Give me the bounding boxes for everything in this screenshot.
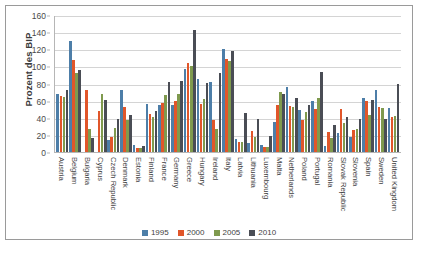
legend-item[interactable]: 2000 <box>178 228 205 237</box>
x-label-cell: Czech Republic <box>106 155 119 227</box>
bar-group <box>107 16 120 152</box>
x-label-cell: Estonia <box>132 155 145 227</box>
source-caption <box>130 250 418 258</box>
bar-group <box>387 16 400 152</box>
legend-swatch-icon <box>214 230 220 236</box>
x-tick-label: Latvia <box>236 157 245 177</box>
y-tick-label: 100 <box>32 62 46 72</box>
x-label-cell: Poland <box>298 155 311 227</box>
y-tick-label: 160 <box>32 11 46 21</box>
chart-figure: Prozent des BIP 020406080100120140160 Au… <box>0 0 421 258</box>
y-tick-mark <box>47 84 50 85</box>
x-tick-label: Slovak Republic <box>338 157 347 211</box>
y-tick-mark <box>47 101 50 102</box>
y-tick-mark <box>47 135 50 136</box>
x-label-cell: Greece <box>183 155 196 227</box>
y-axis-tick-labels: 020406080100120140160 <box>16 16 50 153</box>
bar-group <box>323 16 336 152</box>
x-label-cell: Ireland <box>208 155 221 227</box>
x-tick-label: Poland <box>300 157 309 181</box>
x-tick-label: Sweden <box>376 157 385 184</box>
x-tick-label: Belgium <box>70 157 79 184</box>
x-label-cell: Spain <box>362 155 375 227</box>
y-tick-mark <box>47 153 50 154</box>
x-tick-label: Denmark <box>121 157 130 188</box>
x-label-cell: Slovenia <box>349 155 362 227</box>
bar-group <box>260 16 273 152</box>
x-label-cell: Slovak Republic <box>336 155 349 227</box>
bar-group <box>272 16 285 152</box>
bar-group <box>234 16 247 152</box>
y-tick-label: 120 <box>32 45 46 55</box>
legend-swatch-icon <box>249 230 255 236</box>
x-label-cell: United Kingdom <box>387 155 400 227</box>
x-tick-label: France <box>159 157 168 181</box>
bar-group <box>183 16 196 152</box>
x-tick-label: Portugal <box>313 157 322 185</box>
bar-group <box>336 16 349 152</box>
x-tick-label: Czech Republic <box>108 157 117 210</box>
bar-group <box>145 16 158 152</box>
plot-area <box>54 16 401 153</box>
x-label-cell: Austria <box>55 155 68 227</box>
x-label-cell: Germany <box>170 155 183 227</box>
y-tick-label: 20 <box>37 131 46 141</box>
x-tick-label: Luxembourg <box>261 157 270 199</box>
x-tick-label: Ireland <box>210 157 219 180</box>
bar-group <box>209 16 222 152</box>
legend-label: 2005 <box>223 228 241 237</box>
x-label-cell: Malta <box>272 155 285 227</box>
x-tick-label: Lithuania <box>249 157 258 188</box>
x-label-cell: Netherlands <box>285 155 298 227</box>
bar <box>397 84 400 153</box>
x-label-cell: Sweden <box>375 155 388 227</box>
legend-label: 1995 <box>151 228 169 237</box>
x-tick-label: Cyprus <box>95 157 104 181</box>
bar-group <box>56 16 69 152</box>
x-tick-label: Romania <box>325 157 334 187</box>
x-axis-category-labels: AustriaBelgiumBulgariaCyprusCzech Republ… <box>54 155 401 227</box>
y-tick-mark <box>47 33 50 34</box>
y-tick-label: 140 <box>32 28 46 38</box>
bar-group <box>81 16 94 152</box>
x-tick-label: Spain <box>364 157 373 176</box>
x-tick-label: Italy <box>223 157 232 171</box>
x-tick-label: Hungary <box>197 157 206 186</box>
bar-group <box>222 16 235 152</box>
y-tick-mark <box>47 50 50 51</box>
x-tick-label: Austria <box>57 157 66 181</box>
x-tick-label: Finland <box>146 157 155 182</box>
legend-swatch-icon <box>142 230 148 236</box>
y-tick-label: 60 <box>37 97 46 107</box>
bar-group <box>158 16 171 152</box>
x-label-cell: Belgium <box>68 155 81 227</box>
bar-group <box>120 16 133 152</box>
legend-item[interactable]: 2010 <box>249 228 276 237</box>
y-tick-label: 80 <box>37 80 46 90</box>
bar-group <box>69 16 82 152</box>
bar-group <box>311 16 324 152</box>
x-tick-label: Estonia <box>134 157 143 182</box>
legend-item[interactable]: 1995 <box>142 228 169 237</box>
legend-item[interactable]: 2005 <box>214 228 241 237</box>
x-label-cell: Latvia <box>234 155 247 227</box>
bar-group <box>94 16 107 152</box>
x-label-cell: Cyprus <box>93 155 106 227</box>
bar-group <box>196 16 209 152</box>
bar-group <box>247 16 260 152</box>
chart-legend: 1995200020052010 <box>6 228 412 237</box>
y-tick-mark <box>47 16 50 17</box>
legend-swatch-icon <box>178 230 184 236</box>
x-tick-label: United Kingdom <box>389 157 398 211</box>
bar-group <box>171 16 184 152</box>
legend-label: 2010 <box>258 228 276 237</box>
x-label-cell: Luxembourg <box>260 155 273 227</box>
x-tick-label: Netherlands <box>287 157 296 198</box>
x-label-cell: Romania <box>323 155 336 227</box>
x-tick-label: Bulgaria <box>82 157 91 185</box>
x-label-cell: Hungary <box>196 155 209 227</box>
x-tick-label: Malta <box>274 157 283 176</box>
bar-groups <box>55 16 401 152</box>
bar-group <box>132 16 145 152</box>
legend-label: 2000 <box>187 228 205 237</box>
